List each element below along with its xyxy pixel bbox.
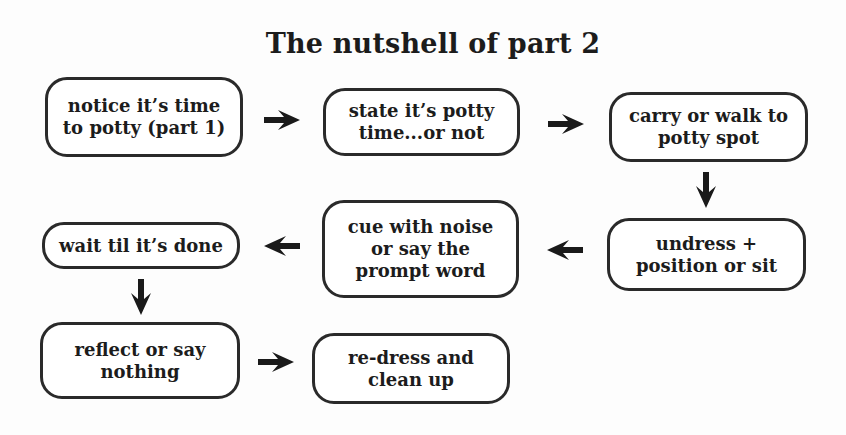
arrow-right-icon	[256, 350, 296, 374]
step-undress-position: undress + position or sit	[607, 218, 806, 291]
arrow-right-icon	[262, 108, 302, 132]
arrow-left-icon	[262, 234, 302, 258]
step-wait-til-done: wait til it’s done	[42, 222, 240, 269]
arrow-right-icon	[546, 112, 586, 136]
step-notice-time: notice it’s time to potty (part 1)	[45, 77, 243, 157]
arrow-down-icon	[694, 170, 718, 210]
step-redress-clean: re-dress and clean up	[312, 333, 510, 404]
arrow-down-icon	[129, 277, 153, 317]
step-reflect: reflect or say nothing	[40, 322, 240, 399]
diagram-title: The nutshell of part 2	[0, 28, 846, 59]
step-carry-or-walk: carry or walk to potty spot	[609, 92, 808, 162]
arrow-left-icon	[545, 238, 585, 262]
step-cue-prompt: cue with noise or say the prompt word	[322, 200, 519, 298]
step-state-potty-time: state it’s potty time...or not	[323, 88, 520, 156]
